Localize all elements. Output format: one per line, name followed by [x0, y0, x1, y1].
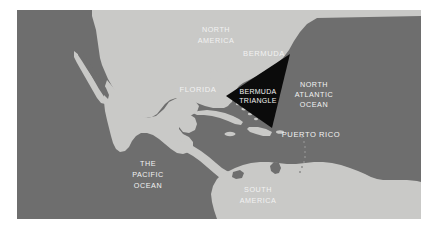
map-graphic: NORTH AMERICA BERMUDA FLORIDA BERMUDA TR… [17, 10, 421, 219]
lesser-antilles-island-6 [303, 161, 305, 163]
bahamas-island-3 [254, 118, 258, 120]
lesser-antilles-island-5 [304, 156, 306, 158]
jamaica-island [225, 132, 236, 136]
label-pacific-line2: PACIFIC [132, 170, 164, 179]
label-north-atlantic-line1: NORTH [300, 80, 328, 89]
label-south-america-line1: SOUTH [244, 185, 272, 194]
label-bermuda-triangle-line2: TRIANGLE [239, 97, 276, 104]
lesser-antilles-island-8 [299, 171, 301, 173]
label-florida: FLORIDA [180, 85, 217, 94]
label-bermuda-triangle-line1: BERMUDA [239, 88, 276, 95]
lesser-antilles-island-3 [304, 146, 306, 148]
lesser-antilles-island-4 [304, 151, 306, 153]
label-pacific-line1: THE [140, 159, 156, 168]
label-north-atlantic-line2: ATLANTIC [295, 90, 334, 99]
page-wrap: NORTH AMERICA BERMUDA FLORIDA BERMUDA TR… [0, 0, 437, 233]
label-puerto-rico: PUERTO RICO [282, 130, 341, 139]
bermuda-triangle-map: NORTH AMERICA BERMUDA FLORIDA BERMUDA TR… [17, 10, 421, 219]
label-pacific-line3: OCEAN [134, 181, 162, 190]
trinidad-island [296, 176, 300, 179]
label-north-america-line1: NORTH [202, 25, 230, 34]
lesser-antilles-island-7 [301, 166, 303, 168]
label-bermuda: BERMUDA [243, 49, 285, 58]
label-north-atlantic-line3: OCEAN [300, 100, 328, 109]
label-north-america-line2: AMERICA [198, 36, 235, 45]
lesser-antilles-island-2 [303, 141, 305, 143]
label-south-america-line2: AMERICA [240, 196, 277, 205]
